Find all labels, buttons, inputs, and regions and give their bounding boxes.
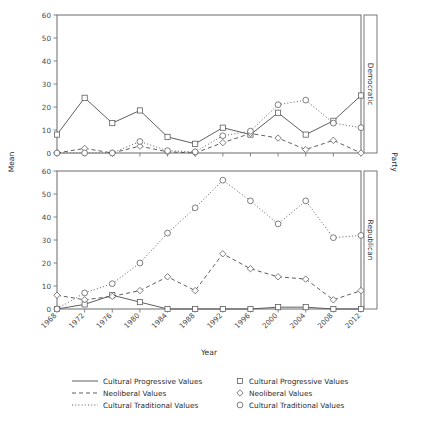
legend-line-label: Cultural Progressive Values (103, 377, 202, 386)
x-tick-label: 1988 (177, 311, 197, 331)
data-point (358, 306, 363, 311)
data-point (164, 274, 170, 280)
data-point (109, 150, 115, 156)
legend-symbol-key (237, 402, 243, 408)
legend-line-label: Cultural Traditional Values (103, 401, 198, 410)
data-point (82, 150, 88, 156)
data-point (137, 287, 143, 293)
legend-symbol-label: Cultural Traditional Values (249, 401, 344, 410)
x-tick-label: 1968 (39, 311, 59, 331)
data-point (275, 221, 281, 227)
data-point (330, 235, 336, 241)
legend-line-label: Neoliberal Values (103, 389, 166, 398)
y-tick-label: 60 (42, 167, 52, 176)
x-tick-label: 1972 (67, 311, 86, 330)
data-point (109, 281, 115, 287)
data-point (220, 133, 226, 139)
legend-symbol-key (237, 390, 243, 396)
data-point (193, 306, 198, 311)
data-point (330, 137, 336, 143)
data-point (358, 93, 363, 98)
data-point (275, 274, 281, 280)
data-point (192, 205, 198, 211)
x-tick-label: 2008 (315, 311, 335, 331)
data-point (358, 233, 364, 239)
data-point (82, 95, 87, 100)
data-point (358, 287, 364, 293)
data-point (220, 177, 226, 183)
y-tick-label: 50 (42, 34, 52, 43)
data-point (165, 230, 171, 236)
data-point (275, 102, 281, 108)
data-point (358, 150, 364, 156)
strip-democratic: Democratic (364, 15, 377, 153)
data-point (110, 121, 115, 126)
series-neoliberal-values (54, 130, 364, 156)
data-point (137, 108, 142, 113)
data-point (82, 290, 88, 296)
data-point (193, 141, 198, 146)
x-tick-label: 1984 (150, 311, 170, 331)
data-point (220, 139, 226, 145)
legend-symbol-key (237, 378, 242, 383)
data-point (165, 148, 171, 154)
y-tick-label: 50 (42, 190, 52, 199)
x-tick-label: 1996 (233, 311, 253, 331)
data-point (137, 260, 143, 266)
y-tick-label: 40 (42, 213, 52, 222)
data-point (54, 132, 59, 137)
data-point (248, 198, 254, 204)
outer-strip-label: Party (390, 152, 399, 172)
data-point (330, 120, 336, 126)
y-tick-label: 30 (42, 80, 52, 89)
data-point (275, 110, 280, 115)
legend-symbol-label: Neoliberal Values (249, 389, 312, 398)
data-point (303, 146, 309, 152)
data-point (165, 134, 170, 139)
data-point (303, 198, 309, 204)
data-point (54, 150, 60, 156)
strip-republican: Republican (364, 171, 377, 309)
y-axis-title: Mean (7, 151, 16, 172)
series-line (57, 100, 361, 153)
data-point (303, 305, 308, 310)
data-point (54, 306, 60, 312)
series-line (57, 96, 361, 144)
y-tick-label: 20 (42, 103, 52, 112)
legend: Cultural Progressive ValuesNeoliberal Va… (72, 377, 348, 410)
data-point (303, 132, 308, 137)
data-point (303, 97, 309, 103)
data-point (248, 306, 253, 311)
y-tick-label: 60 (42, 11, 52, 20)
data-point (137, 300, 142, 305)
series-line (57, 254, 361, 300)
trellis-chart-svg: 0102030405060Democratic0102030405060Repu… (0, 0, 428, 424)
series-line (57, 180, 361, 309)
data-point (358, 125, 364, 131)
panel-republican: 0102030405060 (42, 167, 364, 314)
data-point (137, 139, 143, 145)
x-axis-title: Year (200, 348, 218, 357)
x-tick-label: 2000 (260, 311, 280, 331)
series-line (57, 133, 361, 153)
data-point (248, 128, 254, 134)
panel-frame (57, 15, 361, 153)
strip-label: Democratic (366, 63, 375, 106)
data-point (165, 306, 170, 311)
y-tick-label: 0 (46, 149, 51, 158)
data-point (275, 305, 280, 310)
x-tick-label: 2012 (343, 311, 362, 330)
strip-label: Republican (366, 220, 375, 261)
x-tick-label: 1976 (94, 311, 114, 331)
panel-frame (57, 171, 361, 309)
y-tick-label: 20 (42, 259, 52, 268)
y-tick-label: 10 (42, 282, 52, 291)
data-point (220, 251, 226, 257)
series-line (57, 295, 361, 309)
data-point (54, 292, 60, 298)
y-tick-label: 40 (42, 57, 52, 66)
data-point (192, 149, 198, 155)
data-point (247, 266, 253, 272)
series-cultural-traditional-values (54, 177, 364, 312)
x-tick-label: 2004 (288, 311, 308, 331)
